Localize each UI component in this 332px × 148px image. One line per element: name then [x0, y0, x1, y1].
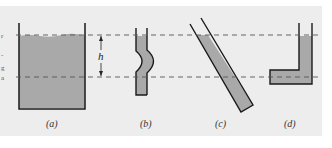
panel-label-d: (d) — [284, 118, 296, 130]
cropped-text-fragments: r - g a — [1, 32, 5, 82]
fragment-2: - — [1, 51, 4, 59]
fragment-1: r — [1, 32, 4, 40]
bulge-tube-liquid — [136, 36, 154, 95]
dimension-label-h: h — [98, 50, 104, 62]
inclined-tube-liquid — [196, 35, 253, 112]
panel-c-inclined-tube — [190, 18, 253, 112]
panel-label-a: (a) — [46, 118, 58, 130]
arrow-up-icon — [99, 36, 103, 41]
panel-d-l-tube — [270, 23, 312, 84]
panel-label-b: (b) — [140, 118, 152, 130]
arrow-down-icon — [99, 71, 103, 76]
fragment-4: a — [1, 74, 5, 82]
hydrostatics-diagram: r - g a h (a) (b) (c) (d) — [0, 0, 332, 148]
fragment-3: g — [1, 64, 5, 72]
height-dimension: h — [98, 36, 104, 76]
panel-label-c: (c) — [215, 118, 227, 130]
tank-liquid — [19, 34, 85, 108]
panel-b-bulge-tube — [136, 28, 154, 95]
panel-a-tank — [19, 23, 85, 109]
